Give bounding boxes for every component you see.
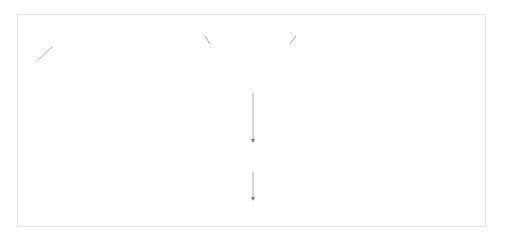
leader-lines [38,36,296,60]
mrna-splicing-diagram [0,0,506,241]
arrow-step2 [251,172,255,201]
arrow-step1 [251,93,255,143]
